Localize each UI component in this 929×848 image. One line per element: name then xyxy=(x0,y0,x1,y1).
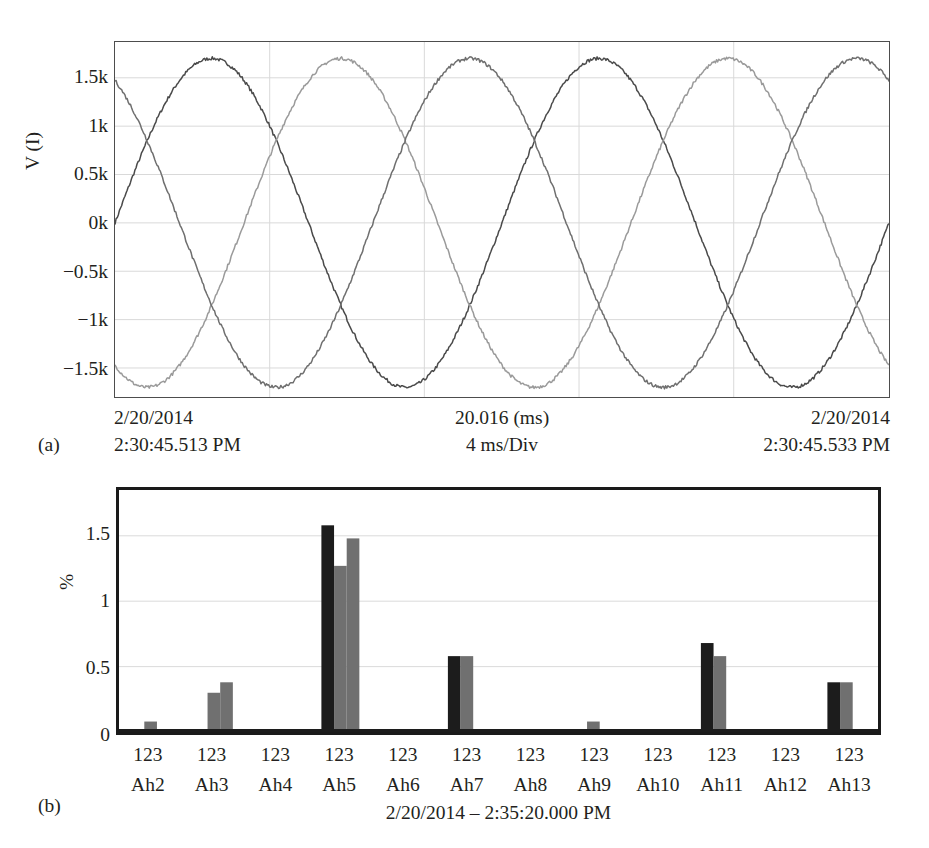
harmonics-x-category: 123Ah13 xyxy=(817,740,881,800)
scope-y-axis-ticks: 1.5k1k0.5k0k−0.5k−1k−1.5k xyxy=(0,41,108,398)
harmonics-category-value: 123 xyxy=(307,740,371,770)
harmonics-category-label: Ah7 xyxy=(435,770,499,800)
scope-y-tick: 1.5k xyxy=(74,66,108,88)
harmonics-category-label: Ah8 xyxy=(499,770,563,800)
harmonics-y-tick: 1 xyxy=(100,590,110,612)
harmonics-x-category: 123Ah5 xyxy=(307,740,371,800)
subfigure-b-label: (b) xyxy=(38,795,61,817)
scope-x-left-time: 2:30:45.513 PM xyxy=(114,431,241,458)
harmonics-y-tick: 1.5 xyxy=(86,523,110,545)
harmonics-x-category: 123Ah10 xyxy=(626,740,690,800)
harmonics-x-category: 123Ah2 xyxy=(116,740,180,800)
harmonics-y-tick: 0.5 xyxy=(86,657,110,679)
harmonics-y-tick: 0 xyxy=(100,724,110,746)
scope-x-label-center: 20.016 (ms) 4 ms/Div xyxy=(455,404,549,458)
scope-y-tick: −1.5k xyxy=(63,358,108,380)
scope-y-tick: 0.5k xyxy=(74,163,108,185)
harmonics-x-category: 123Ah3 xyxy=(180,740,244,800)
scope-x-center-span: 20.016 (ms) xyxy=(455,404,549,431)
harmonics-x-category: 123Ah7 xyxy=(435,740,499,800)
harmonics-category-value: 123 xyxy=(499,740,563,770)
scope-y-tick: −1k xyxy=(78,309,109,331)
scope-figure-panel: V (I) 1.5k1k0.5k0k−0.5k−1k−1.5k 2/20/201… xyxy=(0,0,929,470)
harmonics-category-value: 123 xyxy=(435,740,499,770)
harmonics-category-label: Ah13 xyxy=(817,770,881,800)
harmonics-category-label: Ah4 xyxy=(244,770,308,800)
subfigure-a-label: (a) xyxy=(38,434,60,456)
harmonics-bars-svg xyxy=(119,490,878,732)
harmonics-x-category: 123Ah6 xyxy=(371,740,435,800)
harmonics-category-label: Ah6 xyxy=(371,770,435,800)
harmonics-category-label: Ah3 xyxy=(180,770,244,800)
harmonics-category-value: 123 xyxy=(116,740,180,770)
harmonics-category-value: 123 xyxy=(371,740,435,770)
harmonics-category-label: Ah12 xyxy=(754,770,818,800)
harmonics-x-category: 123Ah4 xyxy=(244,740,308,800)
harmonics-category-value: 123 xyxy=(626,740,690,770)
scope-y-tick: 1k xyxy=(89,115,109,137)
harmonics-category-label: Ah10 xyxy=(626,770,690,800)
harmonics-category-label: Ah5 xyxy=(307,770,371,800)
harmonics-x-category: 123Ah12 xyxy=(754,740,818,800)
harmonics-category-label: Ah2 xyxy=(116,770,180,800)
scope-plot-area xyxy=(114,41,890,398)
scope-x-right-time: 2:30:45.533 PM xyxy=(763,431,890,458)
scope-x-axis-labels: 2/20/2014 2:30:45.513 PM 20.016 (ms) 4 m… xyxy=(114,404,890,464)
scope-x-center-scale: 4 ms/Div xyxy=(455,431,549,458)
harmonics-category-value: 123 xyxy=(817,740,881,770)
harmonics-x-axis-labels: 123Ah2123Ah3123Ah4123Ah5123Ah6123Ah7123A… xyxy=(116,740,881,804)
scope-y-tick: −0.5k xyxy=(63,261,108,283)
harmonics-plot-area xyxy=(116,487,881,735)
harmonics-category-value: 123 xyxy=(754,740,818,770)
harmonics-x-category: 123Ah11 xyxy=(690,740,754,800)
scope-y-tick: 0k xyxy=(89,212,109,234)
harmonics-category-value: 123 xyxy=(690,740,754,770)
harmonics-category-value: 123 xyxy=(180,740,244,770)
harmonics-figure-panel: % 00.511.5 123Ah2123Ah3123Ah4123Ah5123Ah… xyxy=(0,470,929,848)
scope-x-label-left: 2/20/2014 2:30:45.513 PM xyxy=(114,404,241,458)
harmonics-caption: 2/20/2014 – 2:35:20.000 PM xyxy=(116,802,881,824)
harmonics-y-axis-ticks: 00.511.5 xyxy=(0,487,110,735)
scope-waveform-svg xyxy=(115,42,889,397)
scope-x-left-date: 2/20/2014 xyxy=(114,404,241,431)
harmonics-x-category: 123Ah9 xyxy=(562,740,626,800)
harmonics-x-category: 123Ah8 xyxy=(499,740,563,800)
harmonics-category-value: 123 xyxy=(244,740,308,770)
scope-x-label-right: 2/20/2014 2:30:45.533 PM xyxy=(763,404,890,458)
scope-x-right-date: 2/20/2014 xyxy=(763,404,890,431)
harmonics-category-label: Ah9 xyxy=(562,770,626,800)
harmonics-category-label: Ah11 xyxy=(690,770,754,800)
harmonics-category-value: 123 xyxy=(562,740,626,770)
